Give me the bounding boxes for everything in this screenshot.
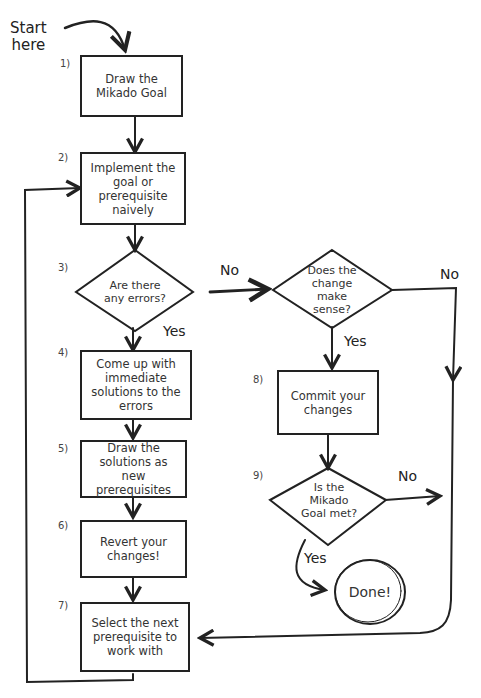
node-commit: Commit your changes — [277, 370, 379, 435]
step-number-2: 2) — [58, 152, 68, 163]
start-here-label: Start here — [10, 20, 47, 54]
start-arrow — [65, 21, 125, 50]
node-select-next: Select the next prerequisite to work wit… — [80, 602, 190, 672]
edge-label-yes-1: Yes — [163, 323, 186, 339]
edge-label-no-1: No — [220, 262, 239, 278]
edge-label-yes-3: Yes — [304, 550, 327, 566]
edge-label-no-3: No — [398, 468, 417, 484]
step-number-1: 1) — [60, 58, 70, 69]
node-implement: Implement the goal or prerequisite naive… — [80, 152, 186, 225]
here-word: here — [10, 37, 47, 54]
step-number-6: 6) — [58, 520, 68, 531]
done-text: Done! — [340, 580, 400, 604]
edge-label-yes-2: Yes — [344, 333, 367, 349]
step-number-9: 9) — [253, 470, 263, 481]
connector-lines — [0, 0, 481, 698]
diamond-errors-text: Are there any errors? — [100, 268, 170, 316]
start-word: Start — [10, 20, 47, 37]
step-number-5: 5) — [58, 443, 68, 454]
node-draw-goal: Draw the Mikado Goal — [80, 55, 183, 117]
diamond-sense-text: Does the change make sense? — [297, 262, 367, 318]
step-number-8: 8) — [253, 374, 263, 385]
node-revert: Revert your changes! — [80, 520, 187, 578]
step-number-7: 7) — [58, 600, 68, 611]
step-number-3: 3) — [58, 262, 68, 273]
node-draw-solutions: Draw the solutions as new prerequisites — [80, 440, 187, 498]
step-number-4: 4) — [58, 347, 68, 358]
node-come-up-solutions: Come up with immediate solutions to the … — [80, 350, 192, 420]
diamond-goal-met-text: Is the Mikado Goal met? — [298, 478, 360, 522]
edge-label-no-2: No — [440, 266, 459, 282]
